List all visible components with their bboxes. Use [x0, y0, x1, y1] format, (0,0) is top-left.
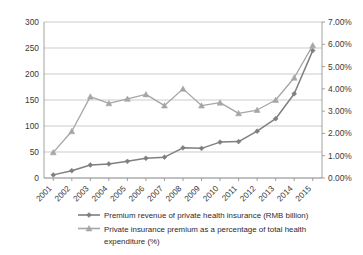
category-label: 2013 [257, 184, 277, 204]
chart-container: 0501001502002503000.00%1.00%2.00%3.00%4.… [0, 0, 363, 255]
category-label: 2010 [201, 184, 221, 204]
left-axis-tick-label: 150 [25, 95, 39, 105]
left-axis-tick-label: 100 [25, 121, 39, 131]
category-label: 2012 [238, 184, 258, 204]
legend-label-2: Private insurance premium as a percentag… [104, 225, 306, 234]
right-axis-tick-label: 2.00% [328, 128, 352, 138]
line-chart: 0501001502002503000.00%1.00%2.00%3.00%4.… [0, 0, 363, 255]
left-axis-tick-label: 0 [34, 173, 39, 183]
left-axis-tick-label: 200 [25, 69, 39, 79]
legend-label-1: Premium revenue of private health insura… [104, 211, 309, 220]
right-axis-tick-label: 7.00% [328, 17, 352, 27]
right-axis-tick-label: 4.00% [328, 84, 352, 94]
right-axis-tick-label: 6.00% [328, 39, 352, 49]
legend-label-2-cont: expenditure (%) [104, 237, 160, 246]
category-label: 2004 [90, 184, 110, 204]
right-axis-tick-label: 5.00% [328, 62, 352, 72]
right-axis-tick-label: 3.00% [328, 106, 352, 116]
left-axis-tick-label: 50 [30, 147, 40, 157]
category-label: 2011 [220, 184, 239, 203]
category-label: 2003 [72, 184, 92, 204]
category-label: 2008 [164, 184, 184, 204]
left-axis-tick-label: 250 [25, 43, 39, 53]
legend-swatch-marker-1 [87, 213, 92, 218]
category-label: 2015 [294, 184, 314, 204]
category-label: 2007 [146, 184, 166, 204]
left-axis-tick-label: 300 [25, 17, 39, 27]
category-label: 2009 [183, 184, 203, 204]
category-label: 2002 [53, 184, 73, 204]
category-label: 2006 [127, 184, 147, 204]
category-label: 2001 [34, 184, 54, 204]
right-axis-tick-label: 1.00% [328, 151, 352, 161]
right-axis-tick-label: 0.00% [328, 173, 352, 183]
category-label: 2014 [275, 184, 295, 204]
category-label: 2005 [109, 184, 129, 204]
